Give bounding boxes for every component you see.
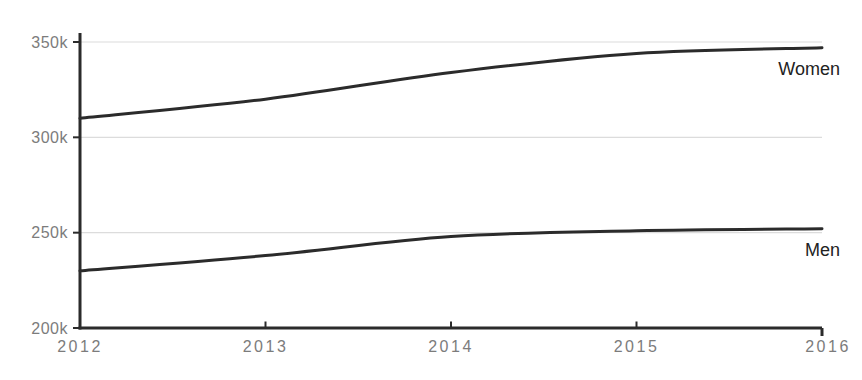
x-tick-label: 2012: [57, 338, 103, 355]
series-label-women: Women: [778, 59, 840, 79]
chart-background: [0, 0, 862, 380]
x-tick-label: 2015: [614, 338, 660, 355]
x-tick-label: 2014: [428, 338, 474, 355]
y-tick-label: 350k: [31, 34, 68, 51]
line-chart: 350k300k250k200k20122013201420152016Wome…: [0, 0, 862, 380]
y-tick-label: 300k: [31, 129, 68, 146]
x-tick-label: 2016: [805, 338, 851, 355]
chart-canvas: 350k300k250k200k20122013201420152016Wome…: [0, 0, 862, 380]
y-tick-label: 200k: [31, 320, 68, 337]
y-tick-label: 250k: [31, 224, 68, 241]
series-label-men: Men: [805, 240, 840, 260]
x-tick-label: 2013: [243, 338, 289, 355]
